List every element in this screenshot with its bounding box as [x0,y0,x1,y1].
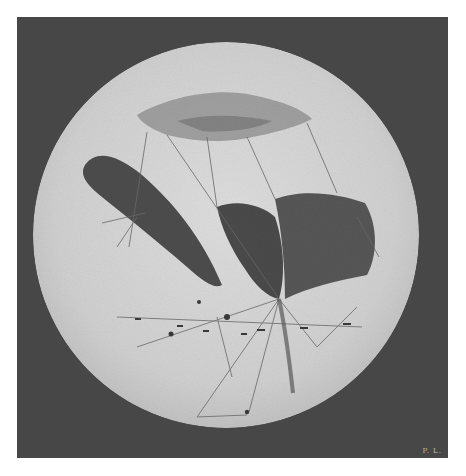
image-frame: P. L. [17,17,448,458]
planet-disc [33,42,419,428]
artist-signature: P. L. [422,447,442,455]
planet-drawing [17,17,448,458]
